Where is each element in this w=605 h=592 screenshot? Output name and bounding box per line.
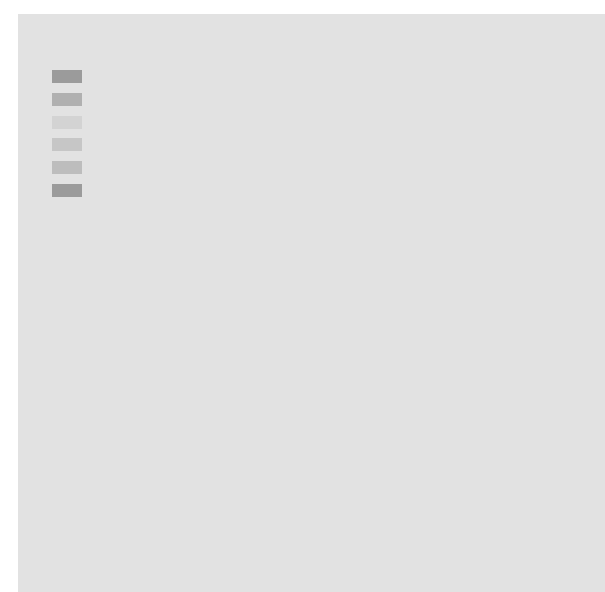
legend-swatch-20-24 xyxy=(52,161,82,174)
legend-item-20-24 xyxy=(52,158,182,178)
map-legend xyxy=(52,67,182,203)
legend-item-25-plus xyxy=(52,180,182,200)
legend-item-no-data xyxy=(52,67,182,87)
map-svg-1995 xyxy=(168,326,605,591)
legend-swatch-no-data xyxy=(52,70,82,83)
footnotes xyxy=(52,500,224,508)
legend-swatch-lt10 xyxy=(52,93,82,106)
choropleth-map-1995 xyxy=(168,326,605,591)
legend-item-lt10 xyxy=(52,90,182,110)
legend-item-15-19 xyxy=(52,135,182,155)
legend-item-10-14 xyxy=(52,112,182,132)
legend-swatch-25-plus xyxy=(52,184,82,197)
choropleth-map-1990 xyxy=(168,44,605,309)
map-svg-1990 xyxy=(168,44,605,309)
page-root xyxy=(0,0,605,592)
figure-panel xyxy=(18,14,605,592)
legend-swatch-10-14 xyxy=(52,116,82,129)
legend-swatch-15-19 xyxy=(52,138,82,151)
